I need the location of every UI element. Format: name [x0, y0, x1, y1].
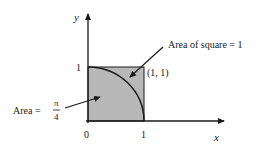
y-axis-label: y [73, 11, 79, 23]
y-tick-label: 1 [76, 62, 81, 73]
x-tick-label: 1 [141, 129, 146, 140]
unit-square [88, 67, 144, 121]
quarter-circle-diagram: y x 0 1 1 (1, 1) Area of square = 1 Area… [0, 0, 274, 146]
quarter-area-numerator: π [54, 98, 59, 108]
x-axis-label: x [213, 131, 219, 143]
origin-label: 0 [84, 129, 89, 140]
quarter-area-prefix: Area = [13, 105, 41, 116]
square-area-label: Area of square = 1 [168, 39, 243, 50]
point-label: (1, 1) [147, 67, 169, 79]
quarter-area-denominator: 4 [54, 112, 59, 122]
